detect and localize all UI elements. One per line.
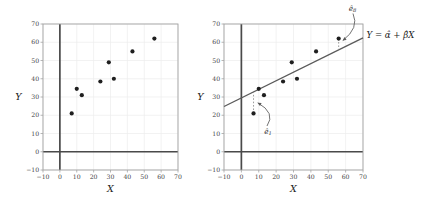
x-tick-label: 60 <box>342 173 350 180</box>
x-tick-label: 50 <box>140 173 148 180</box>
x-tick-label: 0 <box>239 173 243 180</box>
left-y-axis-label: Y <box>15 91 23 102</box>
right-scatter-panel: −10010203040506070−10010203040506070 <box>207 20 367 180</box>
x-tick-label: 10 <box>255 173 263 180</box>
data-point <box>152 37 156 41</box>
data-point <box>337 37 341 41</box>
x-tick-label: 30 <box>107 173 115 180</box>
y-tick-label: 60 <box>31 38 39 45</box>
y-tick-label: 10 <box>212 130 220 137</box>
data-point <box>290 60 294 64</box>
y-tick-label: −10 <box>207 166 220 173</box>
residual-1-arrow <box>258 103 270 126</box>
data-point <box>314 49 318 53</box>
right-x-axis-label: X <box>289 183 298 194</box>
x-tick-label: 60 <box>157 173 165 180</box>
two-panel-regression-figure: −10010203040506070−10010203040506070 −10… <box>0 0 432 203</box>
y-tick-label: 60 <box>212 38 220 45</box>
y-tick-label: 40 <box>212 75 220 82</box>
left-x-axis-label: X <box>106 183 115 194</box>
data-point <box>257 87 261 91</box>
fitted-line-equation-label: Y = α̂ + β̂X <box>367 30 416 40</box>
data-point <box>281 79 285 83</box>
data-point <box>112 77 116 81</box>
x-tick-label: 70 <box>174 173 182 180</box>
y-tick-label: 0 <box>35 148 39 155</box>
y-tick-label: −10 <box>26 166 39 173</box>
x-tick-label: 40 <box>307 173 315 180</box>
y-tick-label: 50 <box>31 57 39 64</box>
data-point <box>80 93 84 97</box>
x-tick-label: 30 <box>290 173 298 180</box>
x-tick-label: −10 <box>217 173 230 180</box>
residual-1-label: ê1 <box>264 127 272 136</box>
x-tick-label: −10 <box>36 173 49 180</box>
y-tick-label: 40 <box>31 75 39 82</box>
data-point <box>251 111 255 115</box>
x-tick-label: 10 <box>73 173 81 180</box>
x-tick-label: 20 <box>272 173 280 180</box>
residual-8-label: ê8 <box>349 4 357 13</box>
x-tick-label: 70 <box>359 173 367 180</box>
data-point <box>70 111 74 115</box>
y-tick-label: 0 <box>216 148 220 155</box>
data-point <box>295 77 299 81</box>
left-scatter-panel: −10010203040506070−10010203040506070 <box>26 20 182 180</box>
y-tick-label: 30 <box>31 93 39 100</box>
y-tick-label: 20 <box>31 111 39 118</box>
scatter-ols-figure-svg: −10010203040506070−10010203040506070 −10… <box>0 0 432 203</box>
data-point <box>130 49 134 53</box>
y-tick-label: 20 <box>212 111 220 118</box>
residual-8-arrow <box>343 14 355 41</box>
data-point <box>262 93 266 97</box>
y-tick-label: 10 <box>31 130 39 137</box>
right-y-axis-label: Y <box>197 91 205 102</box>
x-tick-label: 20 <box>90 173 98 180</box>
y-tick-label: 30 <box>212 93 220 100</box>
data-point <box>75 87 79 91</box>
data-point <box>98 79 102 83</box>
y-tick-label: 50 <box>212 57 220 64</box>
x-tick-label: 40 <box>123 173 131 180</box>
y-tick-label: 70 <box>31 20 39 27</box>
y-tick-label: 70 <box>212 20 220 27</box>
data-point <box>107 60 111 64</box>
x-tick-label: 0 <box>58 173 62 180</box>
x-tick-label: 50 <box>324 173 332 180</box>
